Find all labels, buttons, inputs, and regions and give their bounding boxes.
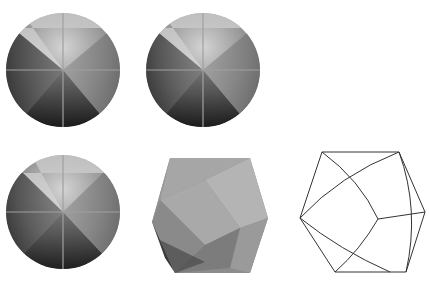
figure-canvas — [0, 0, 429, 287]
shaded-polyhedron — [152, 158, 268, 273]
shaded-sphere-1 — [0, 0, 130, 130]
shaded-sphere-3 — [0, 140, 130, 275]
shaded-sphere-2 — [140, 0, 270, 130]
wireframe-polyhedron — [300, 152, 425, 272]
